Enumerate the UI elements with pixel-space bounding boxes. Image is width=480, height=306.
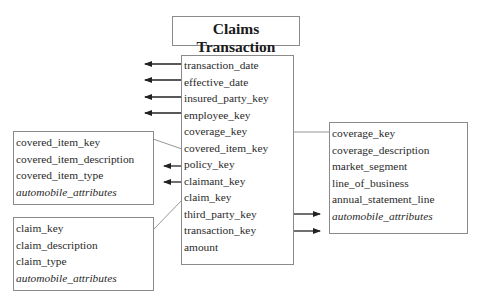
dimension-field: annual_statement_line	[332, 191, 467, 208]
fact-field: effective_date	[184, 74, 293, 91]
fact-field: coverage_key	[184, 123, 293, 140]
fact-field: claim_key	[184, 189, 293, 206]
connector-covered-item	[153, 139, 182, 149]
fact-field: claimant_key	[184, 173, 293, 190]
fact-field: covered_item_key	[184, 140, 293, 157]
fact-field: amount	[184, 239, 293, 256]
fact-field-list: transaction_date effective_date insured_…	[182, 56, 293, 255]
dimension-field: covered_item_type	[16, 167, 153, 184]
dimension-field: line_of_business	[332, 175, 467, 192]
fact-field: employee_key	[184, 107, 293, 124]
dimension-field: claim_description	[16, 237, 153, 254]
dimension-field-list: coverage_key coverage_description market…	[330, 123, 467, 224]
dimension-field: coverage_key	[332, 125, 467, 142]
fact-field: policy_key	[184, 156, 293, 173]
diagram-title-box: Claims Transaction	[172, 16, 300, 46]
dimension-claim: claim_key claim_description claim_type a…	[13, 217, 154, 291]
dimension-field: covered_item_key	[16, 134, 153, 151]
dimension-field-italic: automobile_attributes	[16, 270, 153, 287]
dimension-field: coverage_description	[332, 142, 467, 159]
dimension-field-list: covered_item_key covered_item_descriptio…	[14, 132, 153, 200]
dimension-field-list: claim_key claim_description claim_type a…	[14, 218, 153, 286]
right-arrows	[294, 214, 320, 231]
dimension-field-italic: automobile_attributes	[332, 208, 467, 225]
fact-field: third_party_key	[184, 206, 293, 223]
fact-field: insured_party_key	[184, 90, 293, 107]
dimension-field: claim_key	[16, 220, 153, 237]
fact-field: transaction_key	[184, 222, 293, 239]
fact-table-claims-transaction: transaction_date effective_date insured_…	[181, 55, 294, 265]
dimension-covered-item: covered_item_key covered_item_descriptio…	[13, 131, 154, 205]
dimension-field: claim_type	[16, 253, 153, 270]
dimension-field-italic: automobile_attributes	[16, 184, 153, 201]
dimension-field: covered_item_description	[16, 151, 153, 168]
dimension-coverage: coverage_key coverage_description market…	[329, 122, 468, 234]
fact-field: transaction_date	[184, 57, 293, 74]
connector-claim	[153, 200, 182, 230]
dimension-field: market_segment	[332, 158, 467, 175]
diagram-title: Claims Transaction	[173, 20, 299, 56]
